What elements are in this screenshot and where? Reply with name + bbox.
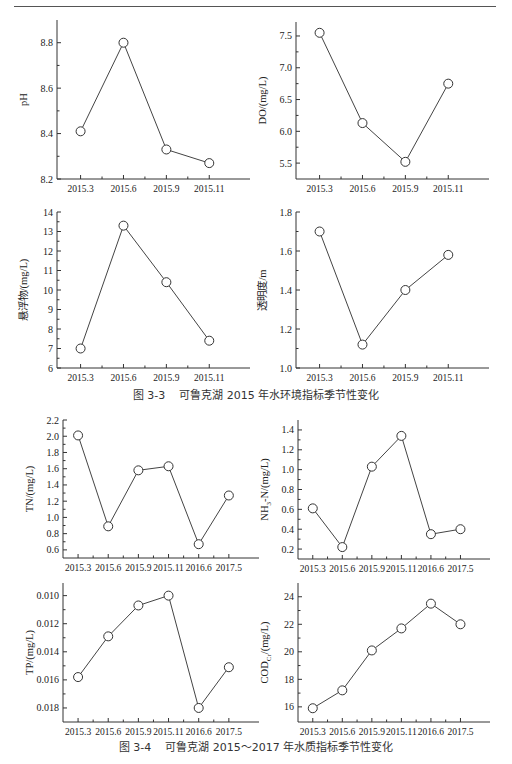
x-tick-label: 2015.11 [194,373,225,383]
x-tick-label: 2015.9 [392,373,418,383]
y-tick-label: 6.5 [280,94,293,105]
x-tick-label: 2016.6 [418,564,444,574]
data-point-marker [426,530,435,539]
y-tick-label: 7 [48,343,53,354]
data-point-marker [367,646,376,655]
y-axis-label: CODCr/(mg/L) [259,621,273,683]
figure-caption-3-3: 图 3-3可鲁克湖 2015 年水环境指标季节性变化 [0,386,512,402]
data-point-marker [315,227,324,236]
data-point-marker [426,599,435,608]
line-chart-2: 678910111213142015.32015.62015.92015.11悬… [57,212,250,369]
y-axis-label: 悬浮物/(mg/L) [17,258,30,321]
y-tick-label: 8 [48,324,53,335]
series-line [81,226,210,349]
y-tick-label: 2.2 [47,415,60,426]
y-tick-label: 1.4 [47,479,60,490]
caption-text: 可鲁克湖 2015～2017 年水质指标季节性变化 [165,741,393,754]
y-tick-label: 12 [43,246,53,257]
data-point-marker [224,491,233,500]
x-tick-label: 2016.6 [418,727,444,737]
data-point-marker [308,704,317,713]
x-tick-label: 2015.6 [349,373,375,383]
caption-number: 图 3-3 [133,389,165,402]
y-tick-label: 9 [48,304,53,315]
y-tick-label: 0.6 [47,544,60,555]
data-point-marker [401,157,410,166]
data-point-marker [74,673,83,682]
caption-text: 可鲁克湖 2015 年水环境指标季节性变化 [179,389,379,402]
x-tick-label: 2015.3 [300,727,326,737]
y-tick-label: 6.0 [280,126,293,137]
x-tick-label: 2015.11 [386,727,417,737]
data-point-marker [456,620,465,629]
caption-number: 图 3-4 [119,741,151,754]
line-chart-0: 8.28.48.68.82015.32015.62015.92015.11pH [57,20,250,180]
x-tick-label: 2015.6 [95,727,121,737]
y-axis-label: pH [18,93,29,106]
data-point-marker [205,336,214,345]
data-point-marker [164,591,173,600]
x-tick-label: 2017.5 [447,727,473,737]
y-tick-label: 22 [284,619,294,630]
x-tick-label: 2015.3 [300,564,326,574]
line-chart-1: 5.56.06.57.07.52015.32015.62015.92015.11… [296,22,489,180]
y-tick-label: 24 [284,591,294,602]
x-tick-label: 2016.6 [186,727,212,737]
y-tick-label: 0.8 [282,484,295,495]
data-point-marker [134,466,143,475]
x-tick-label: 2015.11 [153,727,184,737]
y-tick-label: 1.0 [282,464,295,475]
series-line [81,43,210,163]
y-tick-label: 0.010 [37,590,60,601]
y-tick-label: 1.0 [47,512,60,523]
data-point-marker [76,127,85,136]
y-tick-label: 6 [48,363,53,374]
data-point-marker [444,79,453,88]
y-tick-label: 7.0 [280,62,293,73]
line-chart-4: 0.60.81.01.21.41.61.82.02.22015.32015.62… [63,420,259,559]
data-point-marker [338,543,347,552]
x-tick-label: 2015.6 [110,184,136,194]
data-point-marker [194,703,203,712]
y-tick-label: 20 [284,646,294,657]
y-tick-label: 0.012 [37,618,60,629]
data-point-marker [194,540,203,549]
x-tick-label: 2015.3 [307,373,333,383]
x-tick-label: 2015.3 [65,727,91,737]
y-tick-label: 1.0 [280,363,293,374]
x-tick-label: 2015.11 [194,184,225,194]
y-tick-label: 1.8 [280,207,293,218]
line-chart-6: 0.0100.0120.0140.0160.0182015.32015.6201… [63,583,259,723]
x-tick-label: 2015.9 [153,184,179,194]
data-point-marker [358,119,367,128]
y-tick-label: 1.2 [47,496,60,507]
y-tick-label: 1.4 [280,285,293,296]
y-tick-label: 8.8 [41,37,54,48]
line-chart-3: 1.01.21.41.61.82015.32015.62015.92015.11… [296,212,489,369]
y-axis-label: 透明度/m [256,269,268,310]
x-tick-label: 2015.6 [349,184,375,194]
x-tick-label: 2017.5 [216,727,242,737]
data-point-marker [401,286,410,295]
y-tick-label: 10 [43,285,53,296]
y-tick-label: 8.4 [41,128,54,139]
x-tick-label: 2017.5 [216,563,242,573]
y-tick-label: 0.016 [37,674,60,685]
y-tick-label: 18 [284,674,294,685]
y-tick-label: 5.5 [280,158,293,169]
data-point-marker [205,159,214,168]
y-tick-label: 13 [43,226,53,237]
line-chart-7: 16182022242015.32015.62015.92015.112016.… [298,583,490,723]
data-point-marker [162,278,171,287]
y-tick-label: 1.2 [280,324,293,335]
series-line [78,435,229,544]
y-axis-label: TN/(mg/L) [24,465,36,512]
data-point-marker [367,462,376,471]
x-tick-label: 2015.9 [359,564,385,574]
data-point-marker [119,221,128,230]
y-tick-label: 7.5 [280,30,293,41]
x-tick-label: 2015.11 [433,184,464,194]
x-tick-label: 2016.6 [186,563,212,573]
y-tick-label: 0.2 [282,544,295,555]
data-point-marker [308,504,317,513]
